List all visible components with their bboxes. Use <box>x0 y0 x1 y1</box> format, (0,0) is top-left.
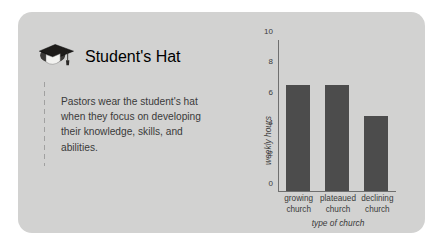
x-tick-labels: growing church plateaued church declinin… <box>279 194 397 215</box>
y-tick-label-6: 6 <box>269 87 273 96</box>
x-axis-title: type of church <box>279 218 397 228</box>
graduation-cap-icon <box>36 42 76 72</box>
x-tick-line-1: plateaued <box>318 194 357 205</box>
page-title: Student's Hat <box>85 48 181 66</box>
x-axis-line <box>278 191 396 192</box>
bar-growing-church[interactable] <box>286 85 310 191</box>
bar-plateaued-church[interactable] <box>325 85 349 191</box>
plot-area: weekly hours 0 2 4 6 8 10 <box>278 40 396 192</box>
y-tick-label-4: 4 <box>269 118 273 127</box>
bar-slot-plateaued-church <box>318 40 357 191</box>
card-body-text: Pastors wear the student's hat when they… <box>61 94 220 155</box>
x-tick-line-1: declining <box>358 194 397 205</box>
y-tick-label-2: 2 <box>269 148 273 157</box>
bar-slot-declining-church <box>357 40 396 191</box>
bar-chart: weekly hours 0 2 4 6 8 10 growing <box>243 30 415 226</box>
x-tick-line-1: growing <box>279 194 318 205</box>
bars-container <box>279 40 396 191</box>
card-body-block: Pastors wear the student's hat when they… <box>44 94 220 155</box>
x-tick-label-plateaued-church: plateaued church <box>318 194 357 215</box>
y-tick-label-0: 0 <box>269 179 273 188</box>
y-tick-label-10: 10 <box>264 27 273 36</box>
x-tick-line-2: church <box>318 205 357 216</box>
x-tick-line-2: church <box>279 205 318 216</box>
x-tick-label-growing-church: growing church <box>279 194 318 215</box>
x-tick-label-declining-church: declining church <box>358 194 397 215</box>
student-hat-card: Student's Hat Pastors wear the student's… <box>18 12 425 233</box>
card-title-row: Student's Hat <box>36 42 181 72</box>
y-tick-label-8: 8 <box>269 57 273 66</box>
bar-slot-growing-church <box>279 40 318 191</box>
bar-declining-church[interactable] <box>364 116 388 192</box>
vertical-accent-rule <box>44 82 45 166</box>
card-left-panel: Student's Hat Pastors wear the student's… <box>32 36 222 216</box>
x-tick-line-2: church <box>358 205 397 216</box>
